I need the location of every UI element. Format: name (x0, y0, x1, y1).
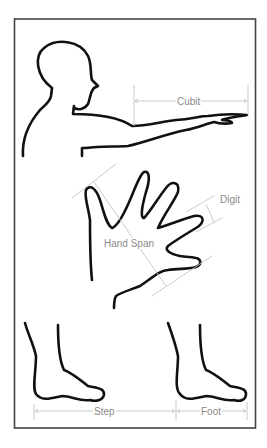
head-and-arm-figure (23, 42, 247, 156)
frame-border (15, 19, 256, 428)
left-foot-figure (25, 323, 104, 401)
hand-span-label: Hand Span (103, 238, 155, 249)
measurement-diagram: Cubit Digit Hand Span Step Foot (0, 0, 267, 448)
digit-measure (186, 196, 222, 232)
right-foot-figure (168, 323, 246, 401)
foot-label: Foot (200, 406, 222, 417)
digit-label: Digit (219, 194, 241, 205)
diagram-svg (0, 0, 267, 448)
cubit-label: Cubit (176, 96, 201, 107)
step-label: Step (93, 406, 116, 417)
